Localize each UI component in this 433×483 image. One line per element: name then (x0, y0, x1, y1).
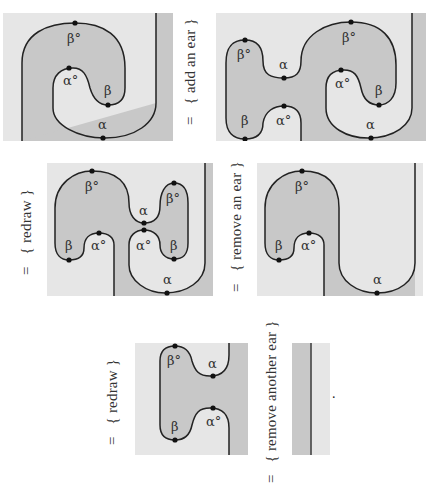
label-alpha: α (373, 272, 382, 287)
annotation-text: { remove an ear } (228, 161, 244, 271)
diagram-panel-6 (292, 343, 330, 455)
annotation-text: { redraw } (104, 359, 120, 425)
label-alpha-circ: α° (301, 238, 316, 253)
diagram-panel-5: β° α α° β (135, 343, 248, 455)
label-alpha: α (163, 272, 172, 287)
step-annotation-2: = { redraw } (18, 189, 35, 275)
label-beta: β (275, 238, 283, 253)
label-beta: β (375, 83, 383, 98)
label-beta: β (170, 238, 178, 253)
label-beta-circ: β° (67, 31, 81, 46)
step-annotation-3: = { remove an ear } (228, 161, 245, 292)
annotation-text: { add an ear } (182, 18, 198, 104)
diagram-panel-2: β° α α° β β° α° β α (216, 13, 426, 141)
label-beta-circ: β° (237, 47, 251, 62)
label-alpha: α (208, 356, 217, 371)
label-alpha-circ: α° (206, 414, 221, 429)
label-alpha-circ: α° (276, 113, 291, 128)
equals-sign: = (228, 283, 244, 292)
label-alpha-circ: α° (136, 238, 151, 253)
diagram-panel-3: β° α β° β α° α° β α (47, 163, 213, 296)
final-period: . (332, 386, 336, 402)
equals-sign: = (182, 116, 198, 125)
label-beta-circ: β° (166, 191, 180, 206)
annotation-text: { redraw } (18, 189, 34, 255)
equals-sign: = (18, 266, 34, 275)
equals-sign: = (104, 436, 120, 445)
step-annotation-1: = { add an ear } (182, 18, 199, 125)
label-beta-circ: β° (167, 353, 181, 368)
label-beta: β (65, 238, 73, 253)
equals-sign: = (263, 474, 279, 483)
diagram-panel-1: β° α° β α (3, 13, 173, 141)
label-beta-circ: β° (85, 179, 99, 194)
label-beta-circ: β° (295, 179, 309, 194)
diagram-panel-4: β° β α° α (257, 163, 423, 296)
label-alpha: α (279, 57, 288, 72)
label-alpha: α (98, 117, 107, 132)
label-alpha: α (366, 117, 375, 132)
label-beta: β (104, 83, 112, 98)
label-alpha: α (139, 203, 148, 218)
label-beta-circ: β° (342, 30, 356, 45)
step-annotation-4: = { redraw } (104, 359, 121, 445)
label-beta: β (241, 113, 249, 128)
step-annotation-5: = { remove another ear } (263, 320, 280, 483)
label-alpha-circ: α° (335, 76, 350, 91)
label-alpha-circ: α° (63, 73, 78, 88)
label-beta: β (171, 419, 179, 434)
label-alpha-circ: α° (91, 238, 106, 253)
annotation-text: { remove another ear } (263, 320, 279, 462)
